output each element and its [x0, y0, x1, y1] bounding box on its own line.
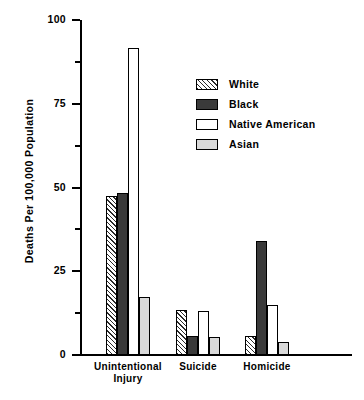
bar [139, 297, 150, 355]
bar [117, 193, 128, 355]
y-tick-label: 100 [8, 13, 66, 25]
y-tick-major [72, 187, 80, 189]
legend-label: White [229, 78, 259, 90]
bar [176, 310, 187, 355]
bar [128, 48, 139, 355]
bar [198, 311, 209, 355]
legend-label: Black [229, 98, 259, 110]
y-tick-major [72, 270, 80, 272]
x-axis-category-label-line: Injury [68, 373, 188, 385]
y-tick-label: 50 [8, 181, 66, 193]
y-tick-major [72, 19, 80, 21]
legend-item[interactable]: Native American [196, 116, 356, 132]
y-tick-major [72, 103, 80, 105]
x-axis-category-label: Homicide [207, 361, 327, 373]
bar [278, 342, 289, 355]
y-tick-label: 25 [8, 264, 66, 276]
bar [209, 337, 220, 355]
x-axis-category-label-line: Homicide [207, 361, 327, 373]
legend-label: Native American [229, 118, 315, 130]
bar [187, 336, 198, 355]
y-tick-major [72, 354, 80, 356]
legend-swatch [196, 99, 218, 110]
bar [256, 241, 267, 355]
legend-item[interactable]: Black [196, 96, 356, 112]
legend-swatch [196, 119, 218, 130]
bar-chart: Deaths Per 100,000 Population 0255075100… [0, 0, 364, 400]
chart-legend: WhiteBlackNative AmericanAsian [196, 76, 356, 156]
legend-item[interactable]: White [196, 76, 356, 92]
legend-swatch [196, 79, 218, 90]
bar [245, 336, 256, 355]
legend-swatch [196, 139, 218, 150]
bar [267, 305, 278, 355]
bar [106, 196, 117, 355]
plot-area [80, 20, 352, 355]
y-tick-label: 0 [8, 348, 66, 360]
legend-label: Asian [229, 138, 259, 150]
legend-item[interactable]: Asian [196, 136, 356, 152]
y-tick-label: 75 [8, 97, 66, 109]
